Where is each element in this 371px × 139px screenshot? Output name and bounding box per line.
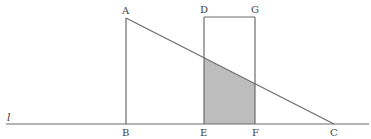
label-E: E	[200, 127, 207, 138]
label-B: B	[122, 127, 129, 138]
label-D: D	[200, 4, 208, 15]
label-F: F	[252, 127, 259, 138]
geometry-diagram: A D G l B E F C	[0, 0, 371, 139]
label-G: G	[251, 4, 259, 15]
shaded-overlap-region	[204, 58, 255, 124]
label-C: C	[330, 127, 338, 138]
label-line-l: l	[7, 111, 11, 124]
label-A: A	[121, 5, 130, 16]
